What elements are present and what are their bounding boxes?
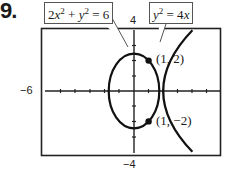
point-label-2: (1, −2)	[156, 113, 192, 129]
window-frame	[42, 29, 221, 156]
intersection-point-1	[145, 57, 151, 63]
point-label-1: (1, 2)	[156, 51, 184, 67]
rhs: = 6	[89, 7, 109, 22]
y-min-label: −4	[123, 158, 136, 170]
plus: +	[65, 7, 79, 22]
y-max-label: 4	[130, 14, 136, 26]
ellipse-equation-label: 2x2 + y2 = 6	[44, 2, 113, 24]
x-min-label: −6	[20, 84, 33, 96]
parabola-equation-label: y2 = 4x	[149, 2, 193, 24]
rhs: = 4	[163, 7, 183, 22]
intersection-point-2	[145, 118, 151, 124]
graph	[0, 0, 225, 174]
var-x: x	[184, 7, 190, 22]
